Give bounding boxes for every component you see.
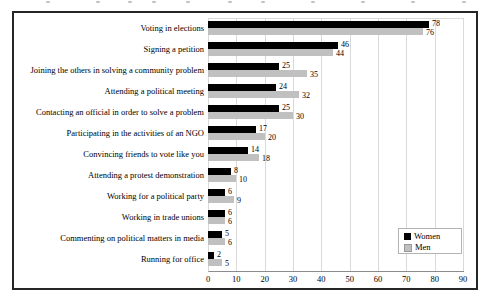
legend-item-women: Women [404, 231, 461, 242]
chart-row: Convincing friends to vote like you1418 [14, 144, 476, 165]
x-axis: 0102030405060708090 [14, 274, 476, 286]
bar-women [208, 63, 279, 70]
value-label-men: 20 [268, 134, 276, 142]
bar-women [208, 189, 225, 196]
bar-men [208, 70, 307, 77]
category-label: Commenting on political matters in media [60, 228, 204, 249]
legend-item-men: Men [404, 242, 461, 253]
value-label-men: 76 [426, 29, 434, 37]
chart-row: Attending a political meeting2432 [14, 81, 476, 102]
value-label-men: 18 [262, 155, 270, 163]
value-label-women: 5 [225, 230, 229, 238]
category-label: Signing a petition [144, 39, 204, 60]
bar-men [208, 28, 423, 35]
value-label-men: 6 [228, 239, 232, 247]
value-label-men: 35 [310, 71, 318, 79]
x-tick-label: 30 [282, 274, 304, 284]
x-tick-label: 10 [225, 274, 247, 284]
chart-row: Participating in the activities of an NG… [14, 123, 476, 144]
legend: Women Men [398, 228, 462, 254]
chart-row: Working in trade unions66 [14, 207, 476, 228]
category-label: Voting in elections [140, 18, 204, 39]
cropped-caption-remnant [0, 0, 488, 4]
value-label-men: 10 [239, 176, 247, 184]
chart-row: Working for a political party69 [14, 186, 476, 207]
chart-row: Voting in elections7876 [14, 18, 476, 39]
value-label-men: 30 [296, 113, 304, 121]
value-label-women: 14 [251, 146, 259, 154]
bar-men [208, 133, 265, 140]
x-tick-label: 80 [424, 274, 446, 284]
bar-women [208, 168, 231, 175]
value-label-women: 2 [217, 251, 221, 259]
value-label-men: 5 [225, 260, 229, 268]
bar-women [208, 105, 279, 112]
legend-label-men: Men [415, 242, 431, 253]
bar-women [208, 42, 338, 49]
value-label-men: 32 [302, 92, 310, 100]
category-label: Working for a political party [107, 186, 204, 207]
bar-men [208, 154, 259, 161]
bar-women [208, 126, 256, 133]
value-label-women: 17 [259, 125, 267, 133]
category-label: Contacting an official in order to solve… [36, 102, 204, 123]
value-label-men: 44 [336, 50, 344, 58]
value-label-women: 25 [282, 104, 290, 112]
category-label: Working in trade unions [122, 207, 204, 228]
bar-men [208, 49, 333, 56]
bar-men [208, 175, 236, 182]
chart-row: Attending a protest demonstration810 [14, 165, 476, 186]
women-swatch-icon [404, 233, 411, 240]
bar-women [208, 231, 222, 238]
value-label-women: 24 [279, 83, 287, 91]
bar-men [208, 217, 225, 224]
bar-women [208, 84, 276, 91]
category-label: Convincing friends to vote like you [83, 144, 204, 165]
chart-row: Joining the others in solving a communit… [14, 60, 476, 81]
bar-men [208, 259, 222, 266]
value-label-women: 78 [432, 20, 440, 28]
bar-women [208, 21, 429, 28]
bar-men [208, 112, 293, 119]
men-swatch-icon [404, 244, 412, 252]
bar-women [208, 210, 225, 217]
x-tick-label: 20 [254, 274, 276, 284]
x-tick-label: 70 [395, 274, 417, 284]
value-label-women: 6 [228, 188, 232, 196]
value-label-men: 9 [237, 197, 241, 205]
bar-women [208, 252, 214, 259]
value-label-men: 6 [228, 218, 232, 226]
value-label-women: 6 [228, 209, 232, 217]
category-label: Participating in the activities of an NG… [67, 123, 204, 144]
category-label: Attending a protest demonstration [88, 165, 204, 186]
chart-row: Contacting an official in order to solve… [14, 102, 476, 123]
x-tick-label: 40 [310, 274, 332, 284]
bar-women [208, 147, 248, 154]
category-label: Attending a political meeting [105, 81, 204, 102]
category-label: Joining the others in solving a communit… [30, 60, 204, 81]
x-tick-label: 90 [452, 274, 474, 284]
chart-frame: Voting in elections7876Signing a petitio… [12, 11, 478, 290]
x-tick-label: 60 [367, 274, 389, 284]
legend-label-women: Women [414, 231, 440, 242]
value-label-women: 25 [282, 62, 290, 70]
chart-row: Signing a petition4644 [14, 39, 476, 60]
bar-men [208, 196, 234, 203]
category-label: Running for office [141, 249, 204, 270]
document-page: Voting in elections7876Signing a petitio… [0, 0, 488, 299]
bar-men [208, 238, 225, 245]
value-label-women: 46 [341, 41, 349, 49]
value-label-women: 8 [234, 167, 238, 175]
x-tick-label: 50 [339, 274, 361, 284]
x-tick-label: 0 [197, 274, 219, 284]
bar-men [208, 91, 299, 98]
